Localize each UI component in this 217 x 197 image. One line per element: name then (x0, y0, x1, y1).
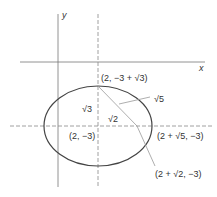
y-axis-label: y (61, 10, 67, 20)
ellipse-diagram: y x (2, −3 + √3) √3 √2 √5 (2, −3) (2 + √… (0, 0, 217, 197)
semi-major-label: √5 (154, 94, 164, 104)
center-label: (2, −3) (69, 131, 95, 141)
x-axis-label: x (198, 63, 204, 73)
focal-distance-label: √2 (108, 114, 118, 124)
top-vertex-label: (2, −3 + √3) (101, 73, 147, 83)
right-vertex-label: (2 + √5, −3) (157, 131, 203, 141)
semi-minor-label: √3 (82, 104, 92, 114)
focus-leader-line (137, 126, 155, 166)
sqrt5-leader-line (119, 97, 150, 104)
focus-label: (2 + √2, −3) (155, 169, 201, 179)
